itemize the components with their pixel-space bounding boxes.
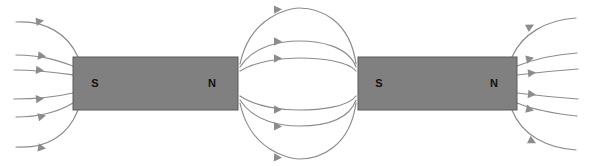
- field-arrow-icon: [274, 54, 282, 63]
- field-line: [240, 96, 356, 110]
- field-arrow-icon: [37, 111, 47, 121]
- field-arrow-icon: [528, 68, 537, 77]
- field-line: [512, 18, 576, 57]
- field-line: [240, 8, 356, 64]
- field-diagram-canvas: SNSN: [0, 0, 592, 166]
- field-line: [517, 69, 578, 75]
- field-line: [16, 103, 73, 117]
- magnet-left-south-pole-label: S: [91, 77, 98, 89]
- magnet-right-south-pole-label: S: [375, 77, 382, 89]
- field-line: [517, 103, 577, 116]
- field-arrow-icon: [274, 105, 282, 114]
- field-line: [240, 58, 356, 71]
- field-arrow-icon: [37, 51, 46, 60]
- field-arrow-icon: [36, 66, 45, 75]
- field-line: [14, 93, 73, 99]
- magnet-left-north-pole-label: N: [208, 77, 216, 89]
- field-arrow-icon: [527, 136, 538, 147]
- magnetic-field-diagram: SNSN: [0, 0, 592, 166]
- field-arrow-icon: [528, 90, 537, 99]
- field-region-center-between: [240, 5, 356, 162]
- field-line: [512, 110, 576, 150]
- magnet-right-north-pole-label: N: [490, 77, 498, 89]
- magnets-layer: [73, 57, 517, 110]
- field-line: [16, 110, 78, 147]
- field-line: [517, 53, 577, 66]
- field-arrow-icon: [274, 37, 282, 46]
- field-region-right-outer: [512, 18, 578, 150]
- field-arrow-icon: [36, 94, 45, 103]
- field-line: [16, 22, 78, 57]
- field-region-left-outer: [14, 16, 78, 152]
- field-line: [240, 103, 356, 159]
- field-line: [517, 93, 578, 99]
